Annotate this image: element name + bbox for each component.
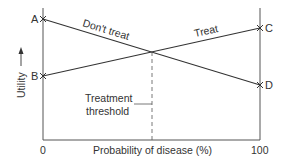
x-axis-label: Probability of disease (%) [93, 144, 212, 156]
threshold-label-line2: threshold [86, 105, 129, 117]
x-tick-100: 100 [251, 144, 269, 156]
point-label-c: C [265, 22, 273, 34]
treat-label: Treat [193, 22, 219, 39]
point-label-b: B [31, 70, 38, 82]
y-axis-label: Utility [15, 72, 27, 98]
threshold-label-line1: Treatment [85, 92, 133, 104]
y-axis-arrow-icon [19, 47, 24, 66]
point-label-d: D [265, 79, 273, 91]
treat-line [43, 28, 260, 76]
x-tick-0: 0 [40, 144, 46, 156]
treatment-threshold-diagram: A B C D Don't treat Treat Treatment thre… [0, 0, 287, 162]
point-label-a: A [31, 13, 39, 25]
